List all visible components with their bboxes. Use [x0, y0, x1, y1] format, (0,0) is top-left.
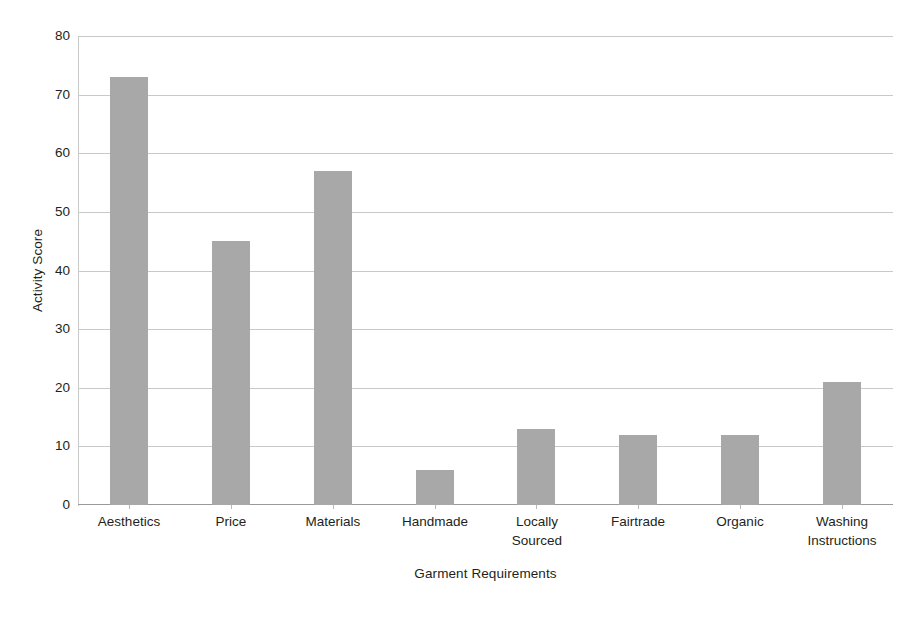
gridline-60 — [78, 153, 893, 154]
y-tick-label-80: 80 — [26, 29, 70, 43]
bar — [619, 435, 657, 505]
x-tick-mark — [842, 505, 843, 509]
x-tick-mark — [536, 505, 537, 509]
gridline-70 — [78, 95, 893, 96]
gridline-50 — [78, 212, 893, 213]
x-tick-mark — [638, 505, 639, 509]
x-tick-mark — [435, 505, 436, 509]
y-tick-label-0: 0 — [26, 498, 70, 512]
x-tick-label: Organic — [689, 512, 791, 531]
y-tick-label-20: 20 — [26, 381, 70, 395]
y-tick-label-30: 30 — [26, 322, 70, 336]
y-tick-label-40: 40 — [26, 264, 70, 278]
bar — [823, 382, 861, 505]
x-tick-label: Washing Instructions — [791, 512, 893, 550]
y-tick-label-10: 10 — [26, 439, 70, 453]
x-tick-mark — [333, 505, 334, 509]
bar — [110, 77, 148, 505]
x-tick-label: Materials — [282, 512, 384, 531]
bar — [416, 470, 454, 505]
x-tick-label: Price — [180, 512, 282, 531]
bar — [314, 171, 352, 505]
gridline-40 — [78, 271, 893, 272]
x-tick-label: Aesthetics — [78, 512, 180, 531]
x-tick-mark — [740, 505, 741, 509]
x-tick-label: Fairtrade — [587, 512, 689, 531]
plot-area — [78, 36, 893, 505]
x-tick-label: Locally Sourced — [486, 512, 588, 550]
y-tick-label-60: 60 — [26, 146, 70, 160]
y-axis-tick-labels: 01020304050607080 — [22, 36, 70, 505]
x-axis-title: Garment Requirements — [78, 566, 893, 581]
x-tick-mark — [129, 505, 130, 509]
gridline-80 — [78, 36, 893, 37]
bar — [517, 429, 555, 505]
gridline-0 — [78, 504, 893, 505]
x-axis-tick-labels: AestheticsPriceMaterialsHandmadeLocally … — [78, 512, 893, 568]
gridline-20 — [78, 388, 893, 389]
gridline-10 — [78, 446, 893, 447]
x-tick-mark — [231, 505, 232, 509]
bar — [212, 241, 250, 505]
y-tick-label-50: 50 — [26, 205, 70, 219]
bar-chart: Activity Score 01020304050607080 Aesthet… — [0, 0, 918, 618]
y-tick-label-70: 70 — [26, 88, 70, 102]
x-tick-label: Handmade — [384, 512, 486, 531]
gridline-30 — [78, 329, 893, 330]
bar — [721, 435, 759, 505]
